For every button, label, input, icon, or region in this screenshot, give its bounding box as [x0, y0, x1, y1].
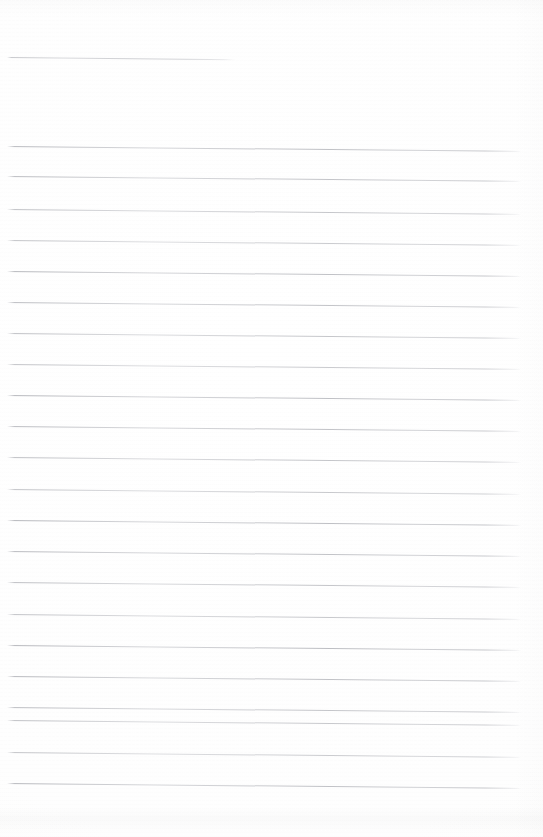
ruled-line	[7, 520, 521, 526]
ruled-line	[7, 240, 521, 246]
ruled-line	[7, 720, 521, 726]
ruled-line	[7, 457, 521, 463]
scanned-page	[0, 0, 543, 837]
ruled-line	[7, 209, 521, 215]
ruled-line	[7, 752, 521, 758]
ruled-line	[7, 707, 521, 713]
ruled-line	[7, 645, 521, 651]
ruled-line	[7, 676, 521, 682]
ruled-line	[7, 333, 521, 339]
ruled-line	[7, 271, 521, 277]
ruled-line	[7, 146, 521, 152]
ruled-line	[7, 614, 521, 620]
ruled-line	[7, 582, 521, 588]
ruled-line	[7, 489, 521, 495]
ruled-line	[7, 551, 521, 557]
ruled-line	[7, 302, 521, 308]
ruled-line	[7, 176, 521, 182]
ruled-lines-layer	[0, 0, 543, 837]
ruled-line	[7, 783, 521, 789]
ruled-line	[7, 395, 521, 401]
ruled-line	[7, 57, 235, 60]
ruled-line	[7, 426, 521, 432]
ruled-line	[7, 364, 521, 370]
